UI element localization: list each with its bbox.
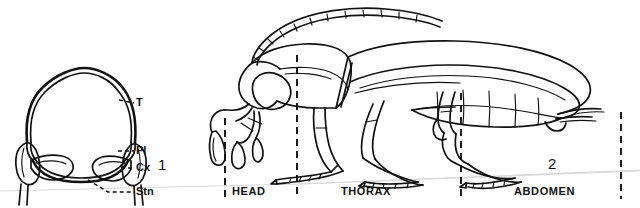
elytron-shape: [336, 41, 590, 119]
figure-plate-artwork: [0, 0, 640, 208]
abdomen-segment-lines: [437, 90, 539, 127]
figure-2-number: 2: [548, 156, 556, 171]
figure-1-number: 1: [158, 157, 166, 172]
label-pleuron: Pl: [136, 145, 146, 156]
region-label-thorax: THORAX: [341, 186, 391, 197]
label-tergum: T: [136, 97, 143, 108]
figure-2-artwork: [210, 8, 621, 199]
sternum-shape: [33, 159, 128, 182]
foreleg-shape: [271, 108, 343, 184]
region-label-abdomen: ABDOMEN: [514, 186, 575, 197]
label-coxa: Cx: [136, 162, 150, 173]
region-label-head: HEAD: [232, 186, 266, 197]
label-sternum: Stn: [136, 186, 154, 197]
head-shape: [239, 62, 280, 109]
abdomen-shape: [412, 90, 562, 127]
cercus-shape: [545, 109, 604, 131]
tergum-shape: [27, 68, 136, 143]
figure-1-artwork: [16, 68, 146, 205]
figure-plate: T Pl Cx Stn 1 HEAD THORAX ABDOMEN 2: [0, 0, 640, 208]
mouthparts-shape: [210, 104, 263, 169]
pronotum-shape: [253, 44, 351, 108]
midleg-shape: [359, 101, 423, 188]
